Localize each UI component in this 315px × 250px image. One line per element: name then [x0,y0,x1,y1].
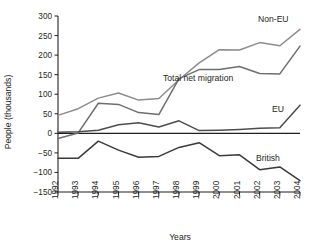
x-tick-label: 1994 [91,180,100,199]
y-tick-label: 0 [47,129,52,138]
x-tick-label: 1998 [172,180,181,199]
y-tick-label: 250 [38,32,52,41]
series-labels: Non-EUTotal net migrationEUBritish [163,14,289,163]
y-tick-label: 100 [38,90,52,99]
series-label-eu: EU [272,104,284,114]
series-label-non-eu: Non-EU [258,14,289,24]
y-axis: −150−100−50050100150200250300 [34,12,58,197]
x-tick-label: 1999 [192,180,201,199]
y-tick-label: 300 [38,12,52,21]
chart-container: −150−100−50050100150200250300 1992199319… [0,0,315,250]
series-line-total-net-migration [58,46,300,138]
x-axis-title: Years [169,232,191,242]
x-tick-label: 2001 [233,180,242,199]
x-tick-label: 1996 [132,180,141,199]
x-tick-label: 1997 [152,180,161,199]
y-tick-label: −150 [34,188,53,197]
x-tick-label: 2002 [253,180,262,199]
y-tick-label: 50 [43,110,53,119]
y-tick-label: −50 [38,149,52,158]
y-tick-label: 150 [38,71,52,80]
y-axis-title: People (thousands) [3,75,13,150]
series-label-total-net-migration: Total net migration [163,73,233,83]
x-tick-label: 2003 [273,180,282,199]
series-label-british: British [256,153,280,163]
y-tick-label: −100 [34,168,53,177]
y-tick-label: 200 [38,51,52,60]
x-axis: 1992199319941995199619971998199920002001… [51,180,302,199]
x-tick-label: 1995 [112,180,121,199]
line-chart: −150−100−50050100150200250300 1992199319… [0,0,315,250]
x-tick-label: 1993 [71,180,80,199]
x-tick-label: 1992 [51,180,60,199]
x-tick-label: 2000 [212,180,221,199]
x-tick-label: 2004 [293,180,302,199]
